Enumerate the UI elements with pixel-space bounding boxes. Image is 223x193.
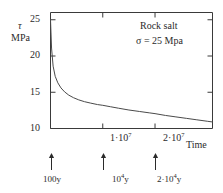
arrow-head (49, 153, 54, 158)
arrow-label-1e4y-mantissa: 10 (112, 174, 121, 184)
arrow-label-2e4y-mantissa: 2·10 (157, 174, 174, 184)
relaxation-curve (51, 20, 213, 122)
data-curve-group (51, 20, 213, 122)
x-tick-label-1e7: 1·107 (110, 133, 132, 143)
plot-frame (51, 13, 213, 129)
x-tick-label-1e7-exponent: 7 (128, 131, 131, 138)
arrow-label-100y: 100y (43, 175, 61, 184)
x-axis-title: Time (186, 140, 207, 150)
annotation-material: Rock salt (140, 21, 178, 31)
y-tick-label-15: 15 (30, 87, 40, 97)
y-tick-label-10: 10 (30, 123, 40, 133)
arrow-label-2e4y: 2·104y (157, 175, 181, 184)
arrow-label-1e4y-suffix: y (124, 174, 129, 184)
y-axis-label-unit: MPa (11, 33, 30, 43)
x-tick-label-2e7-mantissa: 2·10 (163, 132, 181, 143)
arrow-head (101, 153, 106, 158)
arrow-label-2e4y-suffix: y (177, 174, 182, 184)
axis-frame (51, 13, 213, 129)
arrow-label-100y-mantissa: 100y (43, 174, 61, 184)
arrow-head (153, 153, 158, 158)
y-tick-label-25: 25 (30, 14, 40, 24)
x-tick-label-2e7-exponent: 7 (181, 131, 184, 138)
y-tick-label-20: 20 (30, 50, 40, 60)
y-axis-label-symbol: τ (18, 21, 22, 31)
arrow-markers (49, 153, 158, 170)
relaxation-chart-figure: τ MPa 25 20 15 10 1·107 2·107 Time Rock … (0, 0, 223, 193)
x-tick-label-1e7-mantissa: 1·10 (110, 132, 128, 143)
arrow-label-1e4y: 104y (112, 175, 129, 184)
annotation-stress: σ = 25 Mpa (136, 36, 183, 46)
y-tick-marks (51, 20, 213, 129)
x-tick-label-2e7: 2·107 (163, 133, 185, 143)
